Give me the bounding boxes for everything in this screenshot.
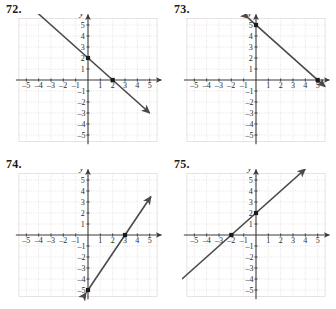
svg-text:1: 1 [266,81,270,90]
coordinate-graph-74: –5–4–3–2–11234512345–1–2–3–4–5xy [14,169,162,301]
problem-panel-74: 74. –5–4–3–2–11234512345–1–2–3–4–5xy [0,155,168,309]
svg-text:3: 3 [81,43,85,52]
svg-text:5: 5 [148,81,152,90]
svg-text:–4: –4 [34,81,43,90]
svg-text:–5: –5 [245,131,254,140]
problem-panel-73: 73. –5–4–3–2–11234512345–1–2–3–4–5xy [168,0,336,154]
svg-text:1: 1 [266,236,270,245]
coordinate-graph-72: –5–4–3–2–11234512345–1–2–3–4–5xy [14,14,162,146]
svg-text:–3: –3 [245,109,254,118]
svg-text:–2: –2 [58,81,67,90]
svg-text:1: 1 [249,220,253,229]
svg-text:1: 1 [98,236,102,245]
svg-text:5: 5 [316,81,320,90]
svg-text:4: 4 [135,236,139,245]
svg-text:–5: –5 [245,286,254,295]
svg-text:5: 5 [148,236,152,245]
svg-text:–4: –4 [245,275,254,284]
svg-text:–3: –3 [245,264,254,273]
svg-text:–2: –2 [77,253,86,262]
svg-text:–2: –2 [226,81,235,90]
problem-panel-75: 75. –5–4–3–2–11234512345–1–2–3–4–5xy [168,155,336,309]
svg-text:y: y [247,14,252,18]
svg-text:1: 1 [81,220,85,229]
svg-text:2: 2 [111,81,115,90]
svg-text:–4: –4 [245,120,254,129]
svg-text:1: 1 [249,65,253,74]
svg-text:–5: –5 [21,236,30,245]
svg-text:–4: –4 [34,236,43,245]
svg-text:–4: –4 [77,120,86,129]
svg-text:–1: –1 [245,87,254,96]
svg-text:–3: –3 [46,81,55,90]
svg-text:2: 2 [81,209,85,218]
svg-text:4: 4 [249,187,253,196]
svg-text:–1: –1 [77,242,86,251]
svg-text:y: y [79,14,84,18]
svg-text:–4: –4 [77,275,86,284]
svg-text:1: 1 [98,81,102,90]
svg-text:–5: –5 [77,286,86,295]
svg-text:–3: –3 [77,264,86,273]
svg-text:–5: –5 [189,81,198,90]
svg-text:1: 1 [81,65,85,74]
svg-text:3: 3 [291,236,295,245]
worksheet-page: 72. –5–4–3–2–11234512345–1–2–3–4–5xy 73.… [0,0,336,309]
svg-text:3: 3 [81,198,85,207]
svg-text:–2: –2 [77,98,86,107]
svg-text:4: 4 [249,32,253,41]
svg-text:2: 2 [279,236,283,245]
svg-text:–1: –1 [245,242,254,251]
svg-text:–5: –5 [77,131,86,140]
problem-panel-72: 72. –5–4–3–2–11234512345–1–2–3–4–5xy [0,0,168,154]
svg-text:–4: –4 [202,236,211,245]
svg-text:5: 5 [81,176,85,185]
svg-text:4: 4 [135,81,139,90]
coordinate-graph-73: –5–4–3–2–11234512345–1–2–3–4–5xy [182,14,330,146]
svg-text:–3: –3 [77,109,86,118]
svg-text:–2: –2 [245,253,254,262]
svg-text:5: 5 [81,21,85,30]
svg-text:4: 4 [303,81,307,90]
svg-text:–5: –5 [21,81,30,90]
svg-text:5: 5 [249,176,253,185]
svg-text:3: 3 [291,81,295,90]
svg-text:2: 2 [279,81,283,90]
svg-text:2: 2 [111,236,115,245]
svg-text:–2: –2 [245,98,254,107]
svg-text:–4: –4 [202,81,211,90]
svg-text:y: y [247,169,252,173]
svg-text:–3: –3 [214,81,223,90]
svg-text:–1: –1 [77,87,86,96]
svg-text:y: y [79,169,84,173]
svg-text:5: 5 [316,236,320,245]
svg-text:4: 4 [81,32,85,41]
svg-text:2: 2 [249,54,253,63]
svg-text:3: 3 [249,43,253,52]
svg-text:–5: –5 [189,236,198,245]
svg-text:3: 3 [249,198,253,207]
svg-text:4: 4 [303,236,307,245]
svg-text:4: 4 [81,187,85,196]
coordinate-graph-75: –5–4–3–2–11234512345–1–2–3–4–5xy [182,169,330,301]
svg-text:–2: –2 [58,236,67,245]
svg-text:–3: –3 [46,236,55,245]
